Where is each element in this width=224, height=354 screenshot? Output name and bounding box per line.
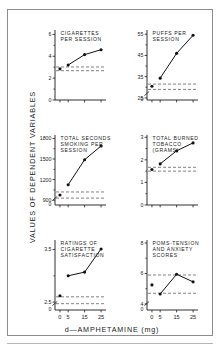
panel-title-line: CIGARETTES <box>61 30 100 36</box>
y-tick-label: 45 <box>138 52 144 58</box>
panel-title-line: PUFFS PER <box>153 30 187 36</box>
panel-title-line: RATINGS OF <box>61 240 98 246</box>
data-point <box>150 85 153 88</box>
y-tick-label: 4 <box>49 53 52 59</box>
x-tick-label: 5 <box>159 314 162 320</box>
data-point <box>159 292 162 295</box>
data-point <box>175 52 178 55</box>
chart-ratings-of-cigarette-satisfaction: 02.53.5051525RATINGS OFCIGARETTESATISFAC… <box>36 236 108 324</box>
data-point <box>192 280 195 283</box>
panel-title-line: TOBACCO <box>153 141 182 147</box>
y-tick-label: 2 <box>141 157 144 163</box>
x-tick-label: 0 <box>150 314 153 320</box>
y-tick-label: 8 <box>141 240 144 246</box>
y-tick-label: 1500 <box>40 156 52 162</box>
x-tick-label: 25 <box>98 314 104 320</box>
chart-poms-tension-and-anxiety-scores: 0468051525POMS-TENSIONAND ANXIETYSCORES <box>128 236 200 324</box>
figure-root: VALUES OF DEPENDENT VARIABLES d—AMPHETAM… <box>0 0 224 354</box>
y-tick-label: 0 <box>49 97 52 103</box>
y-tick-label: 0 <box>141 202 144 208</box>
panel-title-line: AND ANXIETY <box>153 246 194 252</box>
x-tick-label: 15 <box>81 314 87 320</box>
y-tick-label: 900 <box>43 197 52 203</box>
y-tick-label: 4 <box>141 301 144 307</box>
panel-total-burned-tobacco: 0123TOTAL BURNEDTOBACCO(GRAMS) <box>128 131 200 219</box>
data-point <box>100 48 103 51</box>
panel-title-line: SMOKING PER <box>61 141 104 147</box>
panel-title-line: CIGARETTE <box>61 246 96 252</box>
y-tick-label: 6 <box>141 270 144 276</box>
chart-total-seconds-smoking-per-session: 0900120015001800TOTAL SECONDSSMOKING PER… <box>36 131 108 219</box>
data-point <box>100 247 103 250</box>
y-tick-label: 3.5 <box>44 246 51 252</box>
data-point <box>159 162 162 165</box>
x-tick-label: 25 <box>190 314 196 320</box>
data-point <box>159 77 162 80</box>
data-series-line <box>160 274 193 294</box>
data-series-line <box>68 50 101 65</box>
y-tick-label: 1 <box>141 179 144 185</box>
y-tick-label: 6 <box>49 31 52 37</box>
chart-puffs-per-session: 025354555PUFFS PERSESSION <box>128 26 200 114</box>
data-point <box>58 67 61 70</box>
x-axis-label: d—AMPHETAMINE (mg) <box>0 325 224 334</box>
data-point <box>67 274 70 277</box>
y-tick-label: 35 <box>138 74 144 80</box>
data-point <box>150 283 153 286</box>
data-point <box>150 168 153 171</box>
panel-poms-tension-and-anxiety-scores: 0468051525POMS-TENSIONAND ANXIETYSCORES <box>128 236 200 324</box>
data-point <box>175 273 178 276</box>
panel-title-line: SESSION <box>61 147 88 153</box>
panel-title-line: SATISFACTION <box>61 252 105 258</box>
axis-break-zero-label: 0 <box>49 306 52 312</box>
x-tick-label: 0 <box>58 314 61 320</box>
chart-cigarettes-per-session: 0246CIGARETTESPER SESSION <box>36 26 108 114</box>
panel-title-line: TOTAL SECONDS <box>61 135 111 141</box>
panel-title-line: TOTAL BURNED <box>153 135 199 141</box>
panel-title-line: SCORES <box>153 252 178 258</box>
panel-total-seconds-smoking-per-session: 0900120015001800TOTAL SECONDSSMOKING PER… <box>36 131 108 219</box>
chart-total-burned-tobacco: 0123TOTAL BURNEDTOBACCO(GRAMS) <box>128 131 200 219</box>
x-tick-label: 15 <box>173 314 179 320</box>
data-point <box>67 183 70 186</box>
panel-title-line: SESSION <box>153 36 180 42</box>
figure-bottom-rule <box>7 343 213 344</box>
data-point <box>83 53 86 56</box>
panel-title-line: PER SESSION <box>61 36 102 42</box>
panel-cigarettes-per-session: 0246CIGARETTESPER SESSION <box>36 26 108 114</box>
y-tick-label: 3 <box>141 134 144 140</box>
y-tick-label: 1800 <box>40 135 52 141</box>
data-point <box>67 63 70 66</box>
y-tick-label: 25 <box>138 95 144 101</box>
y-tick-label: 55 <box>138 31 144 37</box>
panel-ratings-of-cigarette-satisfaction: 02.53.5051525RATINGS OFCIGARETTESATISFAC… <box>36 236 108 324</box>
data-point <box>83 158 86 161</box>
data-point <box>192 141 195 144</box>
y-tick-label: 1200 <box>40 177 52 183</box>
panel-puffs-per-session: 025354555PUFFS PERSESSION <box>128 26 200 114</box>
panel-title-line: (GRAMS) <box>153 147 179 153</box>
data-point <box>58 294 61 297</box>
data-point <box>192 34 195 37</box>
y-tick-label: 2.5 <box>44 299 51 305</box>
data-point <box>58 194 61 197</box>
x-tick-label: 5 <box>67 314 70 320</box>
data-point <box>83 271 86 274</box>
panel-title-line: POMS-TENSION <box>153 240 200 246</box>
y-tick-label: 2 <box>49 75 52 81</box>
